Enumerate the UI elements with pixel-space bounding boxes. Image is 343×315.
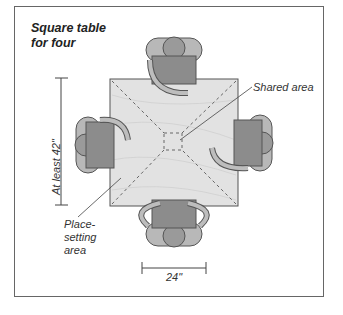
width-dimension-label: 24": [166, 271, 182, 284]
diner-bottom: [141, 200, 207, 247]
height-dimension-label: At least 42": [50, 139, 62, 195]
shared-area-label: Shared area: [253, 81, 314, 94]
place-setting-label: Place- setting area: [64, 218, 96, 257]
